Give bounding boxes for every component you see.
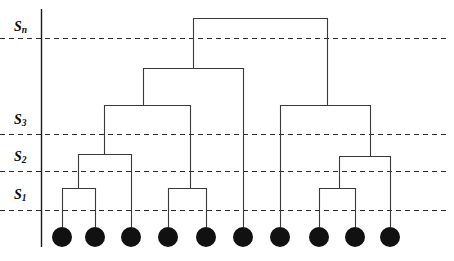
threshold-line-group: [0, 39, 447, 211]
dendrogram-canvas: [0, 0, 454, 261]
leaf-node[interactable]: [270, 227, 290, 247]
axis-label-s-2: S2: [14, 150, 27, 166]
leaf-node[interactable]: [158, 227, 178, 247]
axis-label-s-n: Sn: [14, 20, 27, 36]
axis-label-base: S: [14, 19, 22, 34]
leaf-node[interactable]: [233, 227, 253, 247]
leaf-node[interactable]: [85, 227, 105, 247]
axis-label-subscript: n: [22, 25, 27, 35]
leaf-node[interactable]: [309, 227, 329, 247]
leaf-node[interactable]: [52, 227, 72, 247]
leaf-node-group: [52, 227, 400, 247]
axis-label-s-3: S3: [14, 113, 27, 129]
axis-label-base: S: [14, 187, 22, 202]
axis-label-subscript: 1: [22, 193, 27, 203]
cluster-tree-group: [62, 18, 391, 227]
axis-label-base: S: [14, 149, 22, 164]
axis-label-s-1: S1: [14, 188, 27, 204]
axis-label-subscript: 2: [22, 155, 27, 165]
leaf-node[interactable]: [196, 227, 216, 247]
leaf-node[interactable]: [121, 227, 141, 247]
leaf-node[interactable]: [345, 227, 365, 247]
axis-label-subscript: 3: [22, 118, 27, 128]
leaf-node[interactable]: [380, 227, 400, 247]
axis-label-base: S: [14, 112, 22, 127]
dendrogram-figure: SnS3S2S1: [0, 0, 454, 261]
